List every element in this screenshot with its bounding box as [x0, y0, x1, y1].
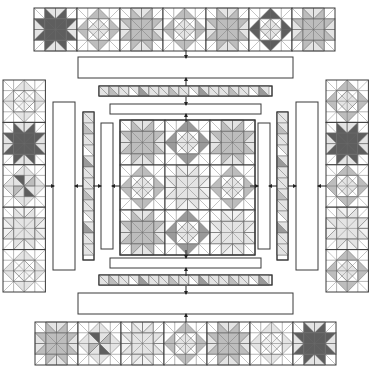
top-block-6	[249, 8, 292, 51]
bottom-block-1	[35, 322, 78, 365]
left-block-column	[3, 80, 45, 292]
right-block-column	[326, 80, 368, 292]
bottom-block-row	[35, 322, 336, 365]
center-block-8	[165, 210, 210, 255]
center-block-6	[210, 165, 255, 210]
center-block-5	[165, 165, 210, 210]
right-block-2	[326, 122, 368, 164]
right-block-3	[326, 165, 368, 207]
right-border-pieced-2	[277, 112, 288, 260]
bottom-border-plain-1	[110, 258, 261, 268]
bottom-block-3	[121, 322, 164, 365]
center-block-7	[120, 210, 165, 255]
right-block-1	[326, 80, 368, 122]
center-block-9	[210, 210, 255, 255]
top-border-pieced-2	[99, 86, 272, 96]
left-block-1	[3, 80, 45, 122]
left-block-4	[3, 207, 45, 249]
top-block-1	[34, 8, 77, 51]
top-border-plain-3	[110, 104, 261, 114]
right-block-4	[326, 207, 368, 249]
bottom-block-7	[293, 322, 336, 365]
top-block-row	[34, 8, 335, 51]
bottom-block-2	[78, 322, 121, 365]
left-block-2	[3, 122, 45, 164]
center-block-grid	[120, 120, 255, 255]
center-block-3	[210, 120, 255, 165]
top-block-3	[120, 8, 163, 51]
top-border-plain-1	[78, 57, 293, 78]
bottom-block-6	[250, 322, 293, 365]
bottom-block-5	[207, 322, 250, 365]
bottom-border-plain-3	[78, 293, 293, 314]
center-block-2	[165, 120, 210, 165]
top-block-5	[206, 8, 249, 51]
bottom-block-4	[164, 322, 207, 365]
right-border-plain-3	[296, 102, 318, 270]
top-block-4	[163, 8, 206, 51]
right-block-5	[326, 250, 368, 292]
top-block-2	[77, 8, 120, 51]
left-border-plain-1	[53, 102, 75, 270]
left-block-3	[3, 165, 45, 207]
center-block-4	[120, 165, 165, 210]
quilt-assembly-diagram	[0, 0, 370, 375]
bottom-border-pieced-2	[99, 275, 272, 285]
center-block-1	[120, 120, 165, 165]
left-block-5	[3, 250, 45, 292]
left-border-pieced-2	[83, 112, 94, 260]
top-block-7	[292, 8, 335, 51]
